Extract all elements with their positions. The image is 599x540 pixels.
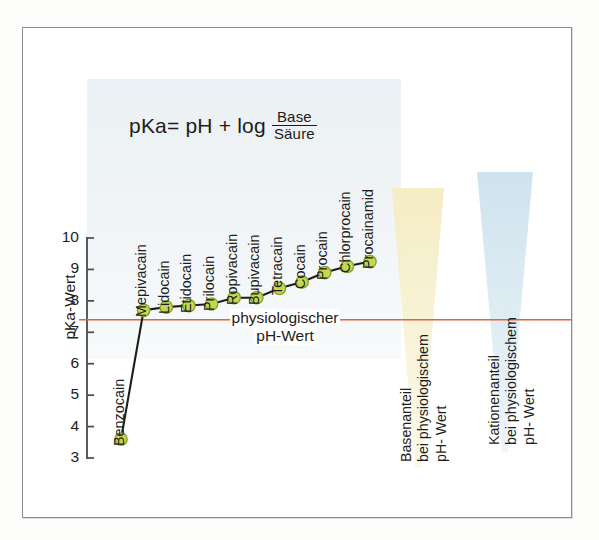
y-axis-title: pKa-Wert	[61, 247, 79, 367]
triangle-label-line: bei physiologischem	[415, 334, 431, 462]
physiological-ph-label: physiologischer pH-Wert	[200, 309, 370, 346]
data-point-label: Cocain	[292, 244, 308, 289]
data-point-label: Ropivacain	[224, 234, 240, 305]
triangle-label-line: bei physiologischem	[503, 317, 519, 445]
triangle-label-line: pH- Wert	[521, 389, 537, 446]
y-tick-label: 10	[53, 228, 79, 246]
triangle-label-line: Basenanteil	[398, 388, 414, 462]
data-point-label: Mepivacain	[133, 244, 149, 317]
figure-root: pKa= pH + log Base Säure 109876543 pKa-W…	[0, 0, 599, 540]
data-point-label: Lidocain	[156, 261, 172, 315]
data-point-label: Prilocain	[201, 256, 217, 311]
data-point-label: Procain	[314, 231, 330, 280]
data-point-label: Benzocain	[111, 379, 127, 446]
y-tick-label: 4	[53, 417, 79, 435]
triangle-label-cation-fraction: Kationenanteilbei physiologischempH- Wer…	[486, 317, 538, 445]
ph-label-line1: physiologischer	[230, 309, 341, 327]
data-point-label: Etidocain	[178, 253, 194, 312]
triangle-label-line: Kationenanteil	[486, 355, 502, 445]
data-point-label: Procainamid	[360, 189, 376, 269]
triangle-label-base-fraction: Basenanteilbei physiologischempH- Wert	[398, 334, 450, 462]
y-axis-group	[87, 237, 94, 459]
triangle-label-line: pH- Wert	[433, 406, 449, 463]
y-tick-label: 3	[53, 448, 79, 466]
y-tick-label: 5	[53, 385, 79, 403]
data-point-label: Chlorprocain	[337, 192, 353, 274]
data-point-label: Tetracain	[269, 237, 285, 295]
ph-label-line2: pH-Wert	[254, 327, 315, 345]
data-point-label: Bupivacain	[246, 234, 262, 304]
